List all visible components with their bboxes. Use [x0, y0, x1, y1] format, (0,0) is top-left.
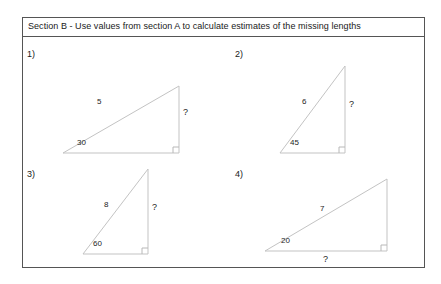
- triangle-diagram-2: [224, 37, 426, 153]
- unknown-side-label-1: ?: [183, 107, 188, 117]
- problem-2: 2) 6 45 ?: [224, 37, 426, 153]
- angle-label-4: 20: [281, 236, 290, 245]
- triangle-diagram-4: [224, 157, 426, 269]
- hypotenuse-label-4: 7: [320, 204, 324, 213]
- hypotenuse-label-2: 6: [302, 97, 306, 106]
- page-title: Section B - Use values from section A to…: [28, 21, 361, 31]
- unknown-side-label-2: ?: [349, 99, 354, 109]
- angle-label-3: 60: [93, 239, 102, 248]
- worksheet-panel: Section B - Use values from section A to…: [22, 17, 425, 268]
- triangle-diagram-3: [23, 157, 224, 269]
- hypotenuse-label-3: 8: [104, 200, 108, 209]
- problem-1: 1) 5 30 ?: [23, 37, 224, 153]
- triangle-diagram-1: [23, 37, 224, 153]
- angle-label-2: 45: [290, 138, 299, 147]
- unknown-side-label-3: ?: [152, 202, 157, 212]
- problem-3: 3) 8 60 ?: [23, 157, 224, 269]
- hypotenuse-label-1: 5: [97, 97, 101, 106]
- unknown-side-label-4: ?: [323, 254, 328, 264]
- worksheet-header: Section B - Use values from section A to…: [23, 18, 424, 37]
- angle-label-1: 30: [77, 138, 86, 147]
- problem-4: 4) 7 20 ?: [224, 157, 426, 269]
